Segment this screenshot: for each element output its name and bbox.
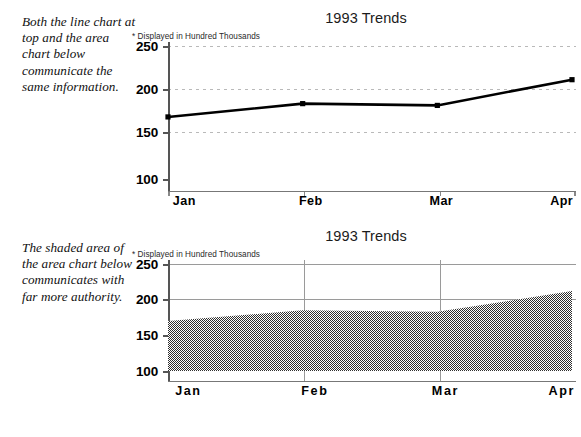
area-chart-series — [168, 260, 576, 373]
x-label-mar: Mar — [432, 384, 459, 398]
line-chart-series — [168, 42, 576, 181]
line-chart-y-axis-labels: 250 200 150 100 — [128, 42, 162, 192]
y-tick-label-250: 250 — [136, 39, 158, 54]
line-chart-subtitle: * Displayed in Hundred Thousands — [128, 32, 576, 41]
line-chart-x-axis-labels: Jan Feb Mar Apr — [168, 192, 576, 212]
line-chart-plot-area: 250 200 150 100 Jan Feb Mar Apr — [128, 42, 576, 192]
line-chart-block: 1993 Trends * Displayed in Hundred Thous… — [128, 10, 576, 192]
y-tick-label-100: 100 — [136, 172, 158, 187]
y-tick-label-250: 250 — [136, 257, 158, 272]
y-tick-label-100: 100 — [136, 364, 158, 379]
data-point-apr — [569, 77, 574, 82]
area-chart-title: 1993 Trends — [128, 228, 576, 244]
caption-line-chart: Both the line chart at top and the area … — [22, 14, 140, 95]
data-point-jan — [165, 114, 170, 119]
caption-area-chart: The shaded area of the area chart below … — [22, 240, 140, 305]
x-label-feb: Feb — [299, 194, 323, 208]
y-tick-label-200: 200 — [136, 292, 158, 307]
x-label-jan: Jan — [173, 194, 196, 208]
area-chart-canvas — [168, 260, 576, 382]
area-chart-block: 1993 Trends * Displayed in Hundred Thous… — [128, 228, 576, 382]
y-tick-label-150: 150 — [136, 125, 158, 140]
x-label-apr: Apr — [550, 194, 573, 208]
area-chart-plot-area: 250 200 150 100 Jan Feb Mar Apr — [128, 260, 576, 382]
area-chart-x-axis-labels: Jan Feb Mar Apr — [168, 382, 576, 402]
line-chart-canvas — [168, 42, 576, 192]
x-label-jan: Jan — [175, 384, 202, 398]
x-label-apr: Apr — [548, 384, 575, 398]
y-tick-label-200: 200 — [136, 82, 158, 97]
area-chart-y-axis-labels: 250 200 150 100 — [128, 260, 162, 382]
data-point-mar — [435, 103, 440, 108]
line-chart-title: 1993 Trends — [128, 10, 576, 26]
x-label-feb: Feb — [301, 384, 328, 398]
y-tick-label-150: 150 — [136, 328, 158, 343]
area-chart-subtitle: * Displayed in Hundred Thousands — [128, 250, 576, 259]
data-point-feb — [300, 101, 305, 106]
area-fill — [168, 291, 572, 371]
x-label-mar: Mar — [430, 194, 454, 208]
